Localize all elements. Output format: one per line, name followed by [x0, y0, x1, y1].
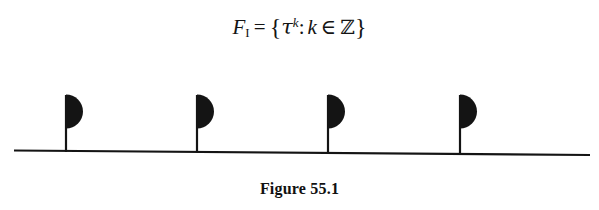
marker-half-disc-head [328, 95, 345, 129]
axis-line-group [14, 151, 590, 156]
marker-half-disc-head [197, 95, 214, 129]
formula-equals-sign: = [250, 15, 270, 39]
formula-exponent: k [293, 15, 299, 30]
formula-open-brace: { [270, 14, 282, 40]
figure-container: FI={τk:k∈ℤ} Figu [0, 0, 599, 210]
set-definition-formula: FI={τk:k∈ℤ} [0, 8, 599, 48]
formula-membership-sign: ∈ [317, 15, 341, 39]
impulse-marker [328, 95, 345, 154]
impulse-marker [197, 95, 214, 153]
impulse-marker [66, 95, 83, 153]
horizontal-axis-line [14, 151, 590, 156]
axis-diagram [0, 80, 599, 165]
marker-half-disc-head [460, 95, 477, 129]
marker-half-disc-head [66, 95, 83, 129]
formula-close-brace: } [355, 14, 367, 40]
impulse-marker [460, 95, 477, 155]
formula-index-symbol: k [307, 15, 316, 39]
formula-index-set: ℤ [340, 15, 355, 39]
figure-caption: Figure 55.1 [0, 180, 599, 198]
formula-base-symbol: τ [281, 15, 293, 39]
formula-lhs-symbol: F [233, 15, 246, 39]
